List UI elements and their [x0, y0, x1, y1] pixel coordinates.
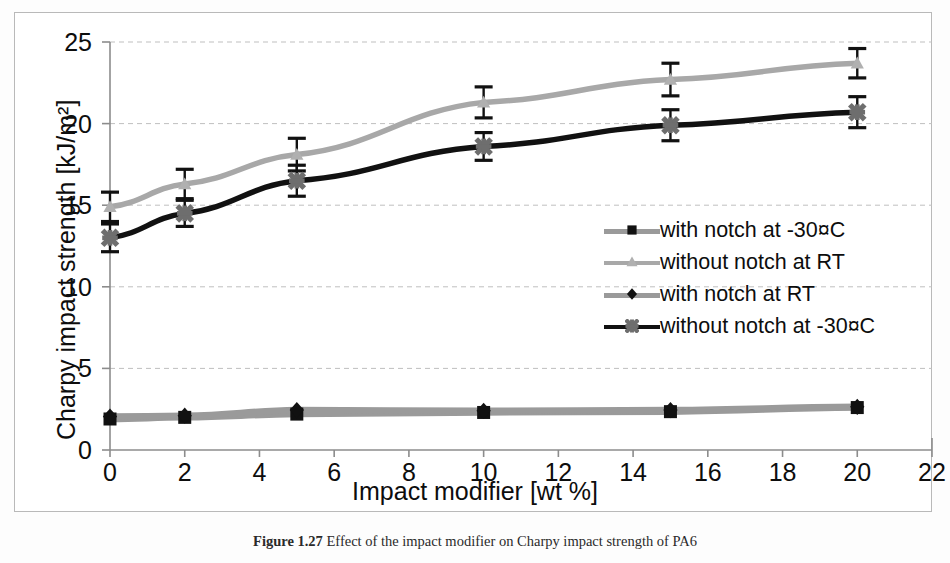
- legend-marker-diamond-icon: [604, 284, 660, 304]
- data-point-marker-diamond: [627, 288, 637, 300]
- legend-label: with notch at -30¤C: [660, 220, 845, 241]
- caption-figure-number: Figure 1.27: [253, 533, 323, 549]
- data-point-marker-star: [625, 319, 638, 332]
- y-tick-label: 25: [30, 28, 92, 57]
- x-tick-label: 4: [229, 458, 289, 487]
- legend-marker-glyph: [625, 319, 639, 333]
- figure-page: Charpy impact strength [kJ/m²] Impact mo…: [0, 0, 950, 563]
- legend-item: with notch at -30¤C: [604, 216, 944, 244]
- x-tick-label: 22: [902, 458, 950, 487]
- y-axis-title: Charpy impact strength [kJ/m²]: [52, 100, 81, 440]
- caption-text: Effect of the impact modifier on Charpy …: [326, 533, 696, 549]
- legend-marker-glyph: [625, 223, 639, 237]
- y-tick-label: 10: [30, 272, 92, 301]
- legend-item: without notch at RT: [604, 248, 944, 276]
- legend-label: with notch at RT: [660, 284, 815, 305]
- legend-label: without notch at RT: [660, 252, 845, 273]
- figure-caption: Figure 1.27 Effect of the impact modifie…: [0, 533, 950, 550]
- data-point-marker-square: [627, 225, 636, 234]
- y-tick-label: 5: [30, 354, 92, 383]
- x-tick-label: 14: [603, 458, 663, 487]
- legend-item: without notch at -30¤C: [604, 312, 944, 340]
- chart-legend: with notch at -30¤Cwithout notch at RTwi…: [604, 216, 944, 344]
- x-tick-label: 18: [753, 458, 813, 487]
- legend-marker-square-icon: [604, 220, 660, 240]
- legend-label: without notch at -30¤C: [660, 316, 875, 337]
- x-tick-label: 6: [304, 458, 364, 487]
- x-tick-label: 12: [528, 458, 588, 487]
- legend-marker-triangle-icon: [604, 252, 660, 272]
- legend-marker-star-icon: [604, 316, 660, 336]
- legend-marker-glyph: [625, 255, 639, 269]
- x-tick-label: 8: [379, 458, 439, 487]
- data-point-marker-triangle: [626, 256, 637, 266]
- x-tick-label: 10: [454, 458, 514, 487]
- legend-item: with notch at RT: [604, 280, 944, 308]
- x-tick-label: 0: [80, 458, 140, 487]
- y-tick-label: 15: [30, 191, 92, 220]
- legend-marker-glyph: [625, 287, 639, 301]
- x-tick-label: 2: [155, 458, 215, 487]
- x-tick-label: 20: [827, 458, 887, 487]
- y-tick-label: 20: [30, 109, 92, 138]
- x-tick-label: 16: [678, 458, 738, 487]
